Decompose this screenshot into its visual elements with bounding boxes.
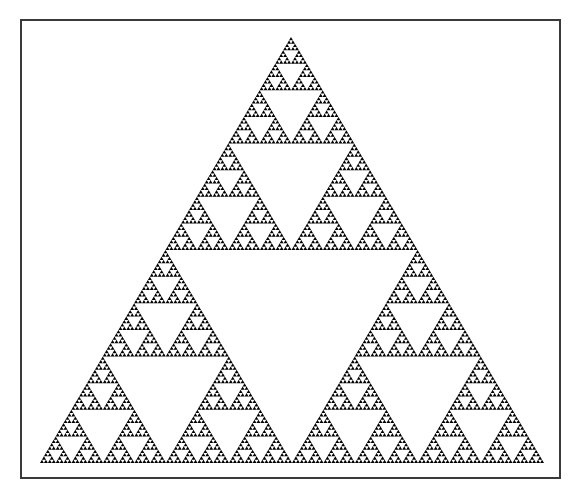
fractal-inner-holes — [42, 40, 542, 463]
fractal-triangles — [40, 37, 544, 463]
sierpinski-triangle — [0, 0, 581, 488]
